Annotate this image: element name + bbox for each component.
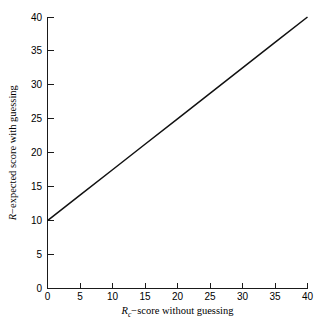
y-tick-label: 35 (31, 45, 43, 56)
x-tick-label: 20 (172, 291, 184, 302)
y-tick-label: 15 (31, 181, 43, 192)
x-axis-title-rest: −score without guessing (131, 305, 234, 316)
figure-background (0, 0, 323, 322)
y-tick-label: 25 (31, 113, 43, 124)
x-tick-label: 25 (204, 291, 216, 302)
y-tick-label: 30 (31, 79, 43, 90)
y-tick-label: 0 (36, 283, 42, 294)
y-axis-title-rest: −expected score with guessing (7, 84, 18, 213)
y-tick-label: 40 (31, 12, 43, 23)
y-tick-label: 5 (36, 249, 42, 260)
x-tick-label: 35 (269, 291, 281, 302)
chart-figure: 40 35 30 25 20 15 10 5 0 0 5 10 15 20 25… (0, 0, 323, 322)
x-tick-label: 15 (139, 291, 151, 302)
x-tick-label: 10 (107, 291, 119, 302)
svg-text:R−expected score with guessing: R−expected score with guessing (7, 84, 18, 221)
x-tick-label: 5 (77, 291, 83, 302)
y-tick-label: 10 (31, 215, 43, 226)
x-tick-label: 40 (302, 291, 314, 302)
x-tick-label: 0 (45, 291, 51, 302)
y-axis-title: R−expected score with guessing (7, 84, 18, 221)
line-chart: 40 35 30 25 20 15 10 5 0 0 5 10 15 20 25… (0, 0, 323, 322)
x-tick-label: 30 (237, 291, 249, 302)
y-tick-label: 20 (31, 147, 43, 158)
